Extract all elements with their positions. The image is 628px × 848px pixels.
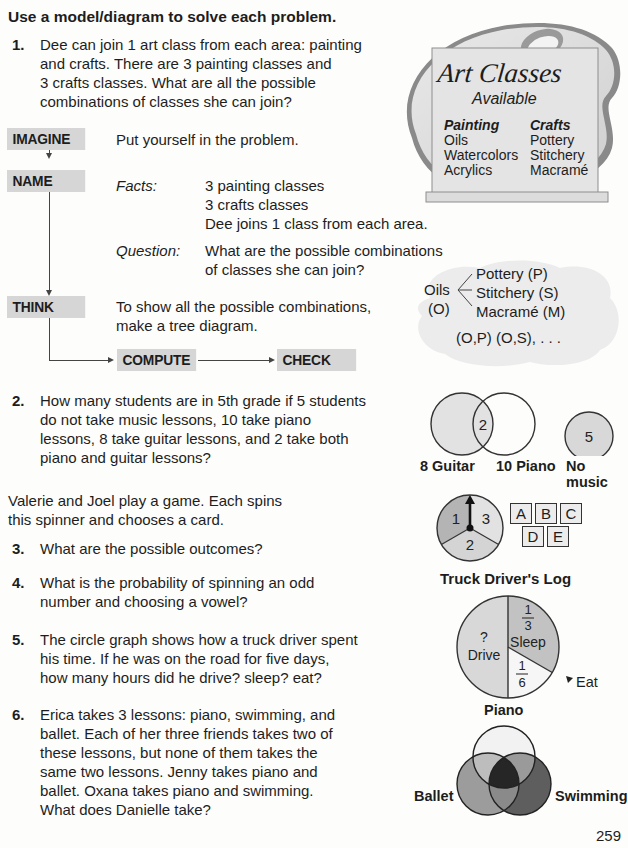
name-box: NAME bbox=[7, 170, 85, 192]
question-text: What are the possible combinations of cl… bbox=[205, 241, 443, 279]
crafts-item: Pottery bbox=[530, 133, 588, 148]
sign-title: Art Classes bbox=[436, 58, 563, 89]
think-line: make a tree diagram. bbox=[116, 316, 371, 335]
no-music-label: No music bbox=[566, 458, 628, 490]
painting-list: Painting Oils Watercolors Acrylics bbox=[444, 118, 518, 178]
arrow-right-icon bbox=[108, 357, 114, 363]
imagine-text: Put yourself in the problem. bbox=[116, 130, 299, 149]
guitar-label: 8 Guitar bbox=[420, 458, 475, 474]
problem-line: Erica takes 3 lessons: piano, swimming, … bbox=[40, 705, 335, 724]
card-e: E bbox=[547, 526, 569, 547]
facts-list: 3 painting classes 3 crafts classes Dee … bbox=[205, 176, 428, 233]
think-line: To show all the possible combinations, bbox=[116, 297, 371, 316]
crafts-header: Crafts bbox=[530, 118, 588, 133]
painting-item: Acrylics bbox=[444, 163, 518, 178]
svg-text:6: 6 bbox=[518, 675, 525, 690]
think-box: THINK bbox=[7, 296, 85, 318]
music-venn-diagram: 2 5 8 Guitar 10 Piano No music bbox=[410, 384, 628, 479]
crafts-item: Macramé bbox=[530, 163, 588, 178]
card-c: C bbox=[560, 503, 582, 524]
think-text: To show all the possible combinations, m… bbox=[116, 297, 371, 335]
problem-line: same two lessons. Jenny takes piano and bbox=[40, 762, 335, 781]
game-intro: Valerie and Joel play a game. Each spins… bbox=[8, 491, 282, 529]
svg-text:Drive: Drive bbox=[468, 647, 501, 663]
svg-text:?: ? bbox=[480, 629, 488, 645]
tree-branches: Pottery (P) Stitchery (S) Macramé (M) bbox=[476, 264, 565, 321]
crafts-list: Crafts Pottery Stitchery Macramé bbox=[530, 118, 588, 178]
pie-chart: ? Drive 1 3 Sleep 1 6 bbox=[456, 592, 566, 702]
sign-subtitle: Available bbox=[472, 90, 537, 108]
intro-line: Valerie and Joel play a game. Each spins bbox=[8, 491, 282, 510]
tree-branch: Stitchery (S) bbox=[476, 283, 565, 302]
tree-root-abbr: (O) bbox=[428, 299, 450, 318]
painting-item: Oils bbox=[444, 133, 518, 148]
problem-line: How many students are in 5th grade if 5 … bbox=[40, 391, 366, 410]
tree-root: Oils bbox=[424, 280, 450, 299]
fact-item: 3 painting classes bbox=[205, 176, 428, 195]
problem-number: 1. bbox=[12, 35, 25, 54]
svg-text:3: 3 bbox=[524, 618, 531, 633]
problem-line: and crafts. There are 3 painting classes… bbox=[40, 54, 362, 73]
svg-text:1: 1 bbox=[452, 510, 460, 527]
svg-text:1: 1 bbox=[524, 602, 531, 617]
fact-item: 3 crafts classes bbox=[205, 195, 428, 214]
compute-box: COMPUTE bbox=[117, 349, 196, 371]
problem-number: 5. bbox=[12, 630, 25, 649]
imagine-box: IMAGINE bbox=[7, 128, 85, 150]
ballet-venn-label: Ballet bbox=[414, 788, 454, 804]
connector-line bbox=[49, 318, 50, 360]
spinner-and-cards: 1 3 2 A B C D E bbox=[436, 493, 616, 565]
crafts-item: Stitchery bbox=[530, 148, 588, 163]
problem-line: these lessons, but none of them takes th… bbox=[40, 743, 335, 762]
painting-item: Watercolors bbox=[444, 148, 518, 163]
problem-line: how many hours did he drive? sleep? eat? bbox=[40, 668, 358, 687]
eat-label: Eat bbox=[576, 674, 598, 690]
svg-text:2: 2 bbox=[466, 536, 474, 553]
connector-line bbox=[49, 150, 50, 154]
arrow-right-icon bbox=[269, 357, 275, 363]
card-b: B bbox=[535, 503, 557, 524]
question-line: of classes she can join? bbox=[205, 260, 443, 279]
problem-number: 6. bbox=[12, 705, 25, 724]
card-a: A bbox=[510, 503, 532, 524]
tree-diagram: Oils (O) Pottery (P) Stitchery (S) Macra… bbox=[410, 258, 625, 370]
connector-line bbox=[49, 192, 50, 292]
pointer-icon bbox=[566, 676, 574, 684]
overlap-value: 2 bbox=[479, 416, 487, 433]
problem-number: 4. bbox=[12, 573, 25, 592]
svg-text:Sleep: Sleep bbox=[510, 634, 546, 650]
problem-line: The circle graph shows how a truck drive… bbox=[40, 630, 358, 649]
piano-label: 10 Piano bbox=[496, 458, 556, 474]
problem-line: 3 crafts classes. What are all the possi… bbox=[40, 73, 362, 92]
problem-line: piano and guitar lessons? bbox=[40, 448, 366, 467]
svg-text:3: 3 bbox=[482, 510, 490, 527]
fact-item: Dee joins 1 class from each area. bbox=[205, 214, 428, 233]
tree-result: (O,P) (O,S), . . . bbox=[456, 328, 561, 347]
problem-number: 2. bbox=[12, 391, 25, 410]
page-heading: Use a model/diagram to solve each proble… bbox=[8, 8, 336, 26]
problem-line: combinations of classes she can join? bbox=[40, 92, 362, 111]
problem-line: lessons, 8 take guitar lessons, and 2 ta… bbox=[40, 429, 366, 448]
facts-label: Facts: bbox=[116, 176, 157, 195]
problem-line: his time. If he was on the road for five… bbox=[40, 649, 358, 668]
connector-line bbox=[198, 360, 271, 361]
tree-branch: Pottery (P) bbox=[476, 264, 565, 283]
tree-branch: Macramé (M) bbox=[476, 302, 565, 321]
problem-line: ballet. Oxana takes piano and swimming. bbox=[40, 781, 335, 800]
problem-line: What does Danielle take? bbox=[40, 800, 335, 819]
no-music-value: 5 bbox=[585, 428, 593, 445]
problem-line: What is the probability of spinning an o… bbox=[40, 573, 314, 592]
question-line: What are the possible combinations bbox=[205, 241, 443, 260]
truck-driver-pie-chart: Truck Driver's Log ? Drive 1 3 Sleep 1 6… bbox=[440, 570, 620, 700]
problem-number: 3. bbox=[12, 539, 25, 558]
lessons-venn-diagram: Piano Ballet Swimming bbox=[410, 700, 628, 815]
problem-line: What are the possible outcomes? bbox=[40, 539, 263, 558]
problem-line: number and choosing a vowel? bbox=[40, 592, 314, 611]
problem-line: Dee can join 1 art class from each area:… bbox=[40, 35, 362, 54]
spinner: 1 3 2 bbox=[436, 493, 506, 563]
question-label: Question: bbox=[116, 241, 180, 260]
card-d: D bbox=[522, 526, 544, 547]
chart-title: Truck Driver's Log bbox=[440, 570, 571, 587]
problem-line: do not take music lessons, 10 take piano bbox=[40, 410, 366, 429]
intro-line: this spinner and chooses a card. bbox=[8, 510, 282, 529]
